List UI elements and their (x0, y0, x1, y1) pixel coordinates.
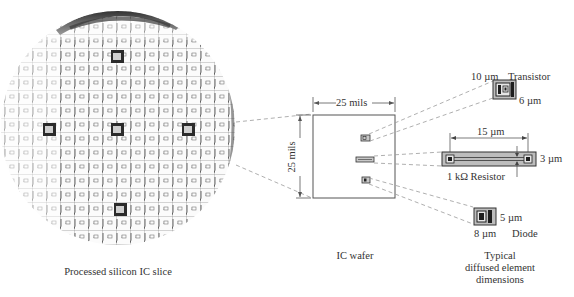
ic-transistor-mini (361, 135, 370, 141)
ic-wafer-caption: IC wafer (320, 250, 390, 262)
elements-caption-line-2: diffused element (450, 262, 550, 274)
elements-caption-line-3: dimensions (450, 274, 550, 286)
wafer-height-label: 25 mils (286, 141, 298, 172)
resistor-length-label: 15 µm (477, 126, 504, 138)
ic-resistor-mini (356, 157, 374, 162)
resistor-width-label: 3 µm (540, 153, 562, 165)
wafer-width-label: 25 mils (336, 97, 367, 109)
diode-width-label: 8 µm (474, 228, 496, 240)
projection-lines-slice (236, 114, 312, 198)
diode-detail (474, 208, 496, 225)
transistor-name-label: Transistor (508, 71, 550, 83)
resistor-name-label: 1 kΩ Resistor (447, 171, 505, 183)
ic-fabrication-diagram: Processed silicon IC slice 25 mils 25 mi… (0, 0, 574, 297)
slice-caption: Processed silicon IC slice (18, 266, 218, 278)
ic-wafer (296, 97, 395, 198)
ic-diode-mini (362, 177, 370, 183)
silicon-slice (0, 0, 240, 260)
diode-name-label: Diode (512, 228, 538, 240)
elements-caption-line-1: Typical (450, 250, 550, 262)
transistor-width-label: 10 µm (471, 71, 498, 83)
elements-caption: Typical diffused element dimensions (450, 250, 550, 286)
diode-height-label: 5 µm (500, 212, 522, 224)
transistor-height-label: 6 µm (519, 95, 541, 107)
